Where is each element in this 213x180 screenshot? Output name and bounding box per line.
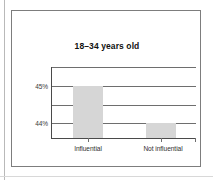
page-edge-line-bottom <box>0 176 213 177</box>
chart-title: 18–34 years old <box>12 41 202 51</box>
x-tick-mark-not-influential <box>161 138 162 142</box>
page-edge-line-left <box>4 0 5 180</box>
x-tick-label-not-influential: Not influential <box>143 145 182 152</box>
x-axis-line <box>51 138 196 139</box>
y-tick-label-45: 45% <box>35 83 48 90</box>
y-axis-line <box>51 67 52 139</box>
x-tick-mark-end <box>195 138 196 142</box>
bar-influential <box>73 86 103 138</box>
bar-not-influential <box>146 123 176 138</box>
x-tick-mark-influential <box>88 138 89 142</box>
chart-frame: 18–34 years old 45% 44% Influential Not … <box>11 10 201 167</box>
plot-area: 45% 44% Influential Not influential <box>51 67 196 138</box>
x-tick-label-influential: Influential <box>74 145 102 152</box>
y-tick-label-44: 44% <box>35 120 48 127</box>
gridline-top <box>51 67 196 68</box>
figure-page: 18–34 years old 45% 44% Influential Not … <box>0 0 213 180</box>
